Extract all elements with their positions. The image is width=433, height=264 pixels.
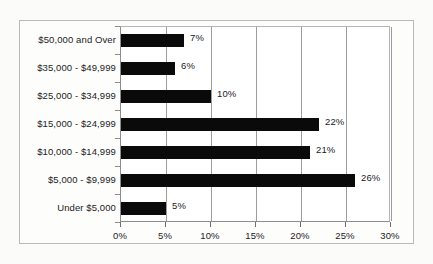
x-tick-mark [390,222,391,227]
y-axis-label: $25,000 - $34,999 [2,90,116,101]
bar [121,118,319,131]
bar [121,146,310,159]
bar-row: 6% [121,55,389,83]
x-tick-label: 30% [380,230,399,241]
bar [121,202,166,215]
y-axis-label: Under $5,000 [2,202,116,213]
bar-value-label: 10% [217,88,236,99]
x-tick-label: 15% [245,230,264,241]
x-tick-mark [210,222,211,227]
y-axis-label: $10,000 - $14,999 [2,146,116,157]
x-tick-mark [120,222,121,227]
bar-row: 10% [121,83,389,111]
y-axis-label: $15,000 - $24,999 [2,118,116,129]
y-axis-category-labels: $50,000 and Over$35,000 - $49,999$25,000… [2,26,116,222]
x-tick-label: 5% [158,230,172,241]
y-axis-label: $35,000 - $49,999 [2,62,116,73]
bar-row: 21% [121,139,389,167]
x-tick-label: 25% [335,230,354,241]
gridline-30pct [391,27,392,221]
plot-area: 7%6%10%22%21%26%5% [120,26,390,222]
y-axis-label: $5,000 - $9,999 [2,174,116,185]
bar-value-label: 6% [181,60,195,71]
bar-row: 7% [121,27,389,55]
chart-figure: $50,000 and Over$35,000 - $49,999$25,000… [0,0,433,264]
x-axis: 0%5%10%15%20%25%30% [120,222,390,248]
bar [121,62,175,75]
bar-value-label: 5% [172,200,186,211]
bar-value-label: 22% [325,116,344,127]
x-tick-label: 20% [290,230,309,241]
x-tick-mark [300,222,301,227]
bar-value-label: 21% [316,144,335,155]
bar-value-label: 26% [361,172,380,183]
y-axis-label: $50,000 and Over [2,34,116,45]
x-tick-mark [255,222,256,227]
x-tick-label: 0% [113,230,127,241]
bar [121,174,355,187]
bar-value-label: 7% [190,32,204,43]
bar-row: 22% [121,111,389,139]
bar [121,34,184,47]
x-tick-label: 10% [200,230,219,241]
bar-row: 26% [121,167,389,195]
bar [121,90,211,103]
x-tick-mark [345,222,346,227]
x-tick-mark [165,222,166,227]
bar-row: 5% [121,195,389,223]
